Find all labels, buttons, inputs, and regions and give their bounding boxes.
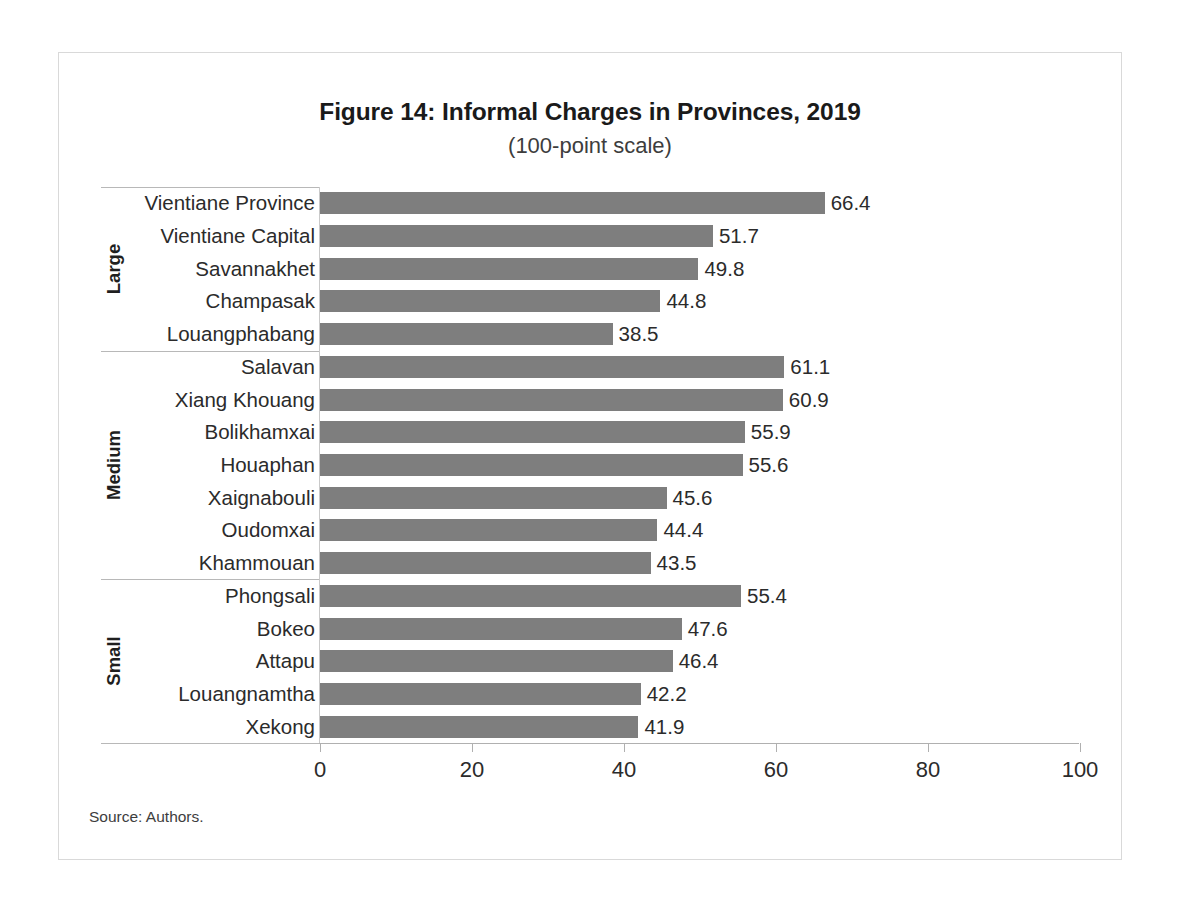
bar	[320, 454, 743, 476]
bar-value-label: 55.6	[749, 453, 789, 477]
bar-value-label: 43.5	[657, 551, 697, 575]
bar-value-label: 41.9	[644, 715, 684, 739]
source-note: Source: Authors.	[89, 808, 204, 826]
x-tick-mark	[472, 743, 473, 752]
category-label: Houaphan	[129, 449, 315, 482]
category-label: Bolikhamxai	[129, 416, 315, 449]
category-label: Oudomxai	[129, 514, 315, 547]
chart-row: Attapu46.4	[101, 645, 1079, 678]
bar	[320, 258, 698, 280]
chart-row: Louangnamtha42.2	[101, 678, 1079, 711]
x-tick-label: 20	[460, 757, 484, 783]
chart-row: Vientiane Capital51.7	[101, 220, 1079, 253]
category-label: Vientiane Province	[129, 187, 315, 220]
bar	[320, 650, 673, 672]
bar	[320, 683, 641, 705]
category-label: Vientiane Capital	[129, 220, 315, 253]
x-tick-mark	[624, 743, 625, 752]
chart-row: Xiang Khouang60.9	[101, 383, 1079, 416]
bar	[320, 519, 657, 541]
bar-value-label: 42.2	[647, 682, 687, 706]
category-label: Attapu	[129, 645, 315, 678]
chart-row: Xaignabouli45.6	[101, 481, 1079, 514]
bar-container: 42.2	[320, 678, 687, 711]
bar-container: 45.6	[320, 481, 712, 514]
chart-row: Xekong41.9	[101, 710, 1079, 743]
bar-value-label: 44.4	[663, 518, 703, 542]
bar-container: 55.6	[320, 449, 788, 482]
category-label: Louangphabang	[129, 318, 315, 351]
bar-container: 55.4	[320, 579, 787, 612]
category-label: Xiang Khouang	[129, 383, 315, 416]
x-axis: 020406080100	[101, 743, 1079, 803]
bar-value-label: 51.7	[719, 224, 759, 248]
chart-title: Figure 14: Informal Charges in Provinces…	[59, 98, 1121, 126]
figure-frame: Figure 14: Informal Charges in Provinces…	[58, 52, 1122, 860]
chart-row: Oudomxai44.4	[101, 514, 1079, 547]
bar	[320, 192, 825, 214]
bar	[320, 356, 784, 378]
chart-subtitle: (100-point scale)	[59, 133, 1121, 159]
x-tick-label: 100	[1062, 757, 1099, 783]
bar-value-label: 47.6	[688, 617, 728, 641]
bar-value-label: 55.9	[751, 420, 791, 444]
category-label: Bokeo	[129, 612, 315, 645]
bar	[320, 618, 682, 640]
x-tick-label: 40	[612, 757, 636, 783]
bar-value-label: 49.8	[704, 257, 744, 281]
category-label: Phongsali	[129, 579, 315, 612]
bar-container: 44.8	[320, 285, 706, 318]
bar-value-label: 60.9	[789, 388, 829, 412]
bar-container: 41.9	[320, 710, 684, 743]
x-tick-mark	[320, 743, 321, 752]
bar	[320, 389, 783, 411]
category-label: Khammouan	[129, 547, 315, 580]
bar-container: 44.4	[320, 514, 703, 547]
bar-value-label: 55.4	[747, 584, 787, 608]
chart-row: Salavan61.1	[101, 351, 1079, 384]
bar-container: 49.8	[320, 252, 744, 285]
x-tick-label: 0	[314, 757, 326, 783]
title-block: Figure 14: Informal Charges in Provinces…	[59, 98, 1121, 159]
bar-container: 51.7	[320, 220, 759, 253]
bar-value-label: 45.6	[673, 486, 713, 510]
bar-container: 43.5	[320, 547, 697, 580]
bar-value-label: 46.4	[679, 649, 719, 673]
chart-row: Champasak44.8	[101, 285, 1079, 318]
plot-area: LargeVientiane Province66.4Vientiane Cap…	[101, 187, 1079, 743]
bar	[320, 487, 667, 509]
x-tick-label: 80	[916, 757, 940, 783]
category-label: Xekong	[129, 710, 315, 743]
category-label: Champasak	[129, 285, 315, 318]
bar-container: 60.9	[320, 383, 829, 416]
chart-row: Houaphan55.6	[101, 449, 1079, 482]
bar	[320, 552, 651, 574]
chart-row: Vientiane Province66.4	[101, 187, 1079, 220]
chart-row: Louangphabang38.5	[101, 318, 1079, 351]
x-tick-label: 60	[764, 757, 788, 783]
bar-value-label: 44.8	[666, 289, 706, 313]
chart-row: Khammouan43.5	[101, 547, 1079, 580]
bar	[320, 421, 745, 443]
x-tick-mark	[928, 743, 929, 752]
chart-row: Bolikhamxai55.9	[101, 416, 1079, 449]
category-label: Savannakhet	[129, 252, 315, 285]
bar-container: 66.4	[320, 187, 871, 220]
category-label: Salavan	[129, 351, 315, 384]
x-tick-mark	[776, 743, 777, 752]
bar	[320, 716, 638, 738]
bar-value-label: 61.1	[790, 355, 830, 379]
chart-row: Bokeo47.6	[101, 612, 1079, 645]
chart-row: Savannakhet49.8	[101, 252, 1079, 285]
bar-value-label: 38.5	[619, 322, 659, 346]
bar-value-label: 66.4	[831, 191, 871, 215]
bar-container: 61.1	[320, 351, 830, 384]
category-label: Louangnamtha	[129, 678, 315, 711]
bar	[320, 323, 613, 345]
category-label: Xaignabouli	[129, 481, 315, 514]
bar-container: 55.9	[320, 416, 791, 449]
chart-row: Phongsali55.4	[101, 579, 1079, 612]
bar-container: 47.6	[320, 612, 728, 645]
bar	[320, 585, 741, 607]
bar-container: 46.4	[320, 645, 719, 678]
